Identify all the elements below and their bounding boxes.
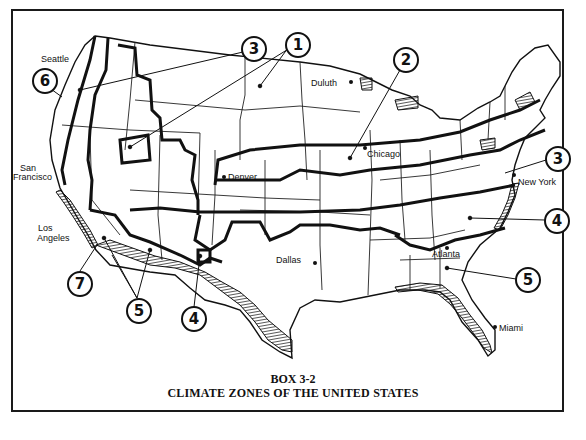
city-label-los-angeles-line2: Angeles bbox=[37, 234, 70, 243]
zone-marker-7: 7 bbox=[67, 271, 93, 297]
city-label-new-york: New York bbox=[518, 178, 556, 187]
southeast-coast-hatch bbox=[395, 283, 492, 353]
zone-marker-1: 1 bbox=[285, 32, 311, 58]
city-label-seattle: Seattle bbox=[41, 55, 69, 64]
city-label-duluth: Duluth bbox=[311, 79, 337, 88]
figure-box-label: BOX 3-2 bbox=[0, 372, 586, 387]
gulf-coast-hatch bbox=[96, 240, 292, 352]
city-label-los-angeles-line1: Los bbox=[38, 224, 53, 233]
figure-title: CLIMATE ZONES OF THE UNITED STATES bbox=[0, 386, 586, 401]
city-label-miami: Miami bbox=[499, 324, 523, 333]
zone-leader-lines bbox=[44, 48, 546, 307]
zone-marker-4-east: 4 bbox=[544, 208, 570, 234]
zone-marker-3-east: 3 bbox=[545, 146, 571, 172]
city-dots bbox=[222, 80, 516, 329]
city-label-dallas: Dallas bbox=[276, 256, 301, 265]
city-label-san-francisco-line2: Francisco bbox=[13, 173, 52, 182]
atlantic-coast-hatch bbox=[494, 183, 519, 230]
city-label-denver: Denver bbox=[228, 173, 257, 182]
zone-marker-2: 2 bbox=[393, 47, 419, 73]
zone-boundaries bbox=[62, 36, 545, 265]
zone-marker-5-southwest: 5 bbox=[126, 298, 152, 324]
city-label-atlanta: Atlanta bbox=[432, 250, 460, 259]
city-label-chicago: Chicago bbox=[367, 150, 400, 159]
zone-marker-5-southeast: 5 bbox=[515, 267, 541, 293]
zone-marker-6: 6 bbox=[32, 68, 58, 94]
zone-marker-3-west: 3 bbox=[241, 36, 267, 62]
zone-marker-4-southwest: 4 bbox=[181, 306, 207, 332]
